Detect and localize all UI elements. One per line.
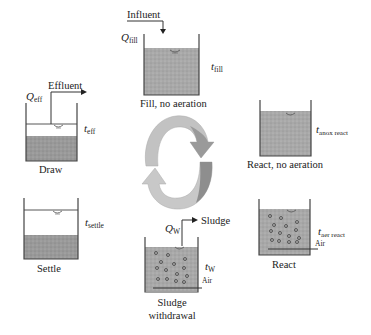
effluent-label: Effluent xyxy=(48,80,82,91)
fill-liquid xyxy=(144,48,199,95)
withdrawal-caption-line1: Sludge xyxy=(157,297,187,308)
t-w-label: tW xyxy=(205,260,216,274)
draw-caption: Draw xyxy=(39,164,63,175)
sbr-cycle-diagram: Influent Qfill tfill Fill, no aeration t… xyxy=(0,0,371,335)
draw-sludge xyxy=(26,136,77,161)
settled-sludge xyxy=(24,235,78,259)
influent-label: Influent xyxy=(127,9,160,20)
t-eff-label: teff xyxy=(84,122,96,136)
arrow-right-icon xyxy=(192,217,198,223)
anox-caption: React, no aeration xyxy=(247,159,324,170)
sludge-flow-label: Sludge xyxy=(201,215,231,226)
t-anox-label: tanox react xyxy=(316,123,348,137)
settle-stage: tsettle Settle xyxy=(24,198,105,274)
draw-stage: Effluent Qeff teff Draw xyxy=(26,80,96,175)
influent-pipe xyxy=(127,21,163,31)
air-label: Air xyxy=(202,276,213,285)
sludge-pipe xyxy=(182,220,193,246)
anox-liquid xyxy=(260,111,311,156)
q-w-label: QW xyxy=(165,222,181,236)
q-fill-label: Qfill xyxy=(121,31,138,45)
fill-caption: Fill, no aeration xyxy=(140,98,208,109)
withdrawal-caption-line2: withdrawal xyxy=(148,310,195,321)
arrow-down-icon xyxy=(160,29,166,34)
q-eff-label: Qeff xyxy=(26,90,43,104)
react-liquid xyxy=(259,209,310,255)
fill-stage: Influent Qfill tfill Fill, no aeration xyxy=(121,9,223,109)
t-aer-label: taer react xyxy=(318,225,345,239)
t-settle-label: tsettle xyxy=(85,216,105,230)
t-fill-label: tfill xyxy=(211,60,223,74)
withdrawal-liquid xyxy=(145,247,198,291)
air-label: Air xyxy=(315,239,326,248)
aer-react-stage: taer react Air React xyxy=(259,199,345,270)
anox-react-stage: tanox react React, no aeration xyxy=(247,100,348,170)
water-level-icon xyxy=(53,211,62,213)
react-caption: React xyxy=(272,259,296,270)
water-level-icon xyxy=(54,125,63,127)
sludge-withdrawal-stage: Sludge QW tW Air Sludge withdrawal xyxy=(145,215,231,321)
settle-caption: Settle xyxy=(37,263,61,274)
cycle-arrows-icon xyxy=(142,116,214,209)
